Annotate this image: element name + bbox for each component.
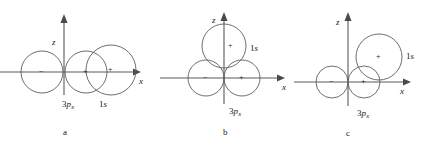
x-axis-arrowhead xyxy=(133,69,141,76)
x-axis-arrowhead xyxy=(277,75,285,82)
z-axis-arrowhead xyxy=(221,12,228,21)
3p-x-label-subscript: x xyxy=(366,112,369,119)
1s-label-letter: s xyxy=(255,43,259,53)
z-axis-arrowhead xyxy=(61,14,68,23)
1s-label-letter: s xyxy=(104,99,108,109)
1s-label: 1s xyxy=(99,100,107,109)
3p-x-label: 3px xyxy=(62,100,74,109)
3p-x-label-subscript: x xyxy=(238,110,241,117)
sign-3p-x-negative: − xyxy=(39,68,44,76)
3p-x-label-subscript: x xyxy=(71,103,74,110)
panel-letter-c: c xyxy=(346,129,350,138)
x-axis-label: x xyxy=(282,83,286,92)
1s-label-letter: s xyxy=(411,51,415,61)
panel-a: z x − + + 3px 1s a xyxy=(0,0,150,153)
x-axis-label: x xyxy=(139,77,143,86)
panel-b-graphic xyxy=(150,0,290,153)
orbital-overlap-figure: z x − + + 3px 1s a z x − + + 3px 1s b xyxy=(0,0,425,153)
panel-c-graphic xyxy=(290,0,425,153)
sign-1s: + xyxy=(228,42,233,50)
1s-label: 1s xyxy=(406,52,414,61)
z-axis-label: z xyxy=(212,16,216,25)
sign-3p-x-positive: + xyxy=(361,78,366,86)
panel-b: z x − + + 3px 1s b xyxy=(150,0,290,153)
3p-x-label: 3px xyxy=(357,109,369,118)
sign-3p-x-positive: + xyxy=(83,68,88,76)
z-axis-arrowhead xyxy=(345,12,352,21)
x-axis-label: x xyxy=(400,87,404,96)
sign-3p-x-negative: − xyxy=(203,74,208,82)
sign-3p-x-negative: − xyxy=(329,78,334,86)
1s-label: 1s xyxy=(250,44,258,53)
3p-x-label: 3px xyxy=(229,107,241,116)
panel-a-graphic xyxy=(0,0,150,153)
z-axis-label: z xyxy=(52,38,56,47)
panel-letter-b: b xyxy=(223,128,228,137)
panel-c: z x − + + 3px 1s c xyxy=(290,0,425,153)
z-axis-label: z xyxy=(336,18,340,27)
sign-1s: + xyxy=(376,53,381,61)
sign-3p-x-positive: + xyxy=(239,74,244,82)
panel-letter-a: a xyxy=(63,128,67,137)
sign-1s: + xyxy=(108,66,113,74)
x-axis-arrowhead xyxy=(403,79,411,86)
